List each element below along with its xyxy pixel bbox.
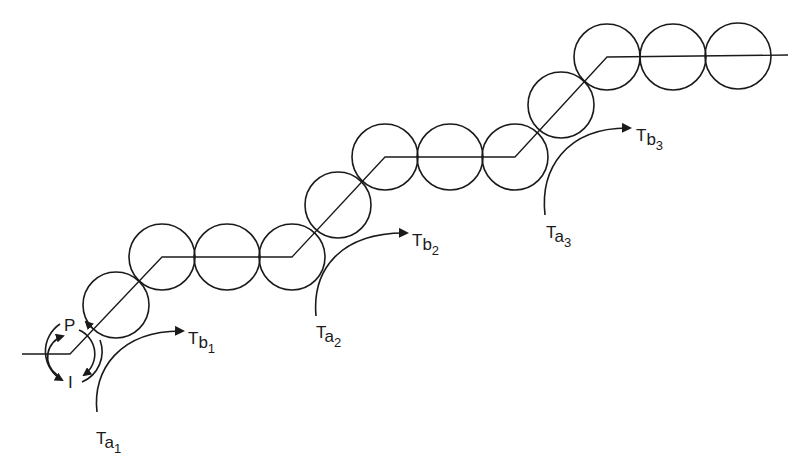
transfer-1: Ta1 Tb1 [96, 329, 215, 456]
transfer-arrow-3-icon [544, 128, 630, 215]
label-ta2: Ta2 [316, 323, 341, 350]
transfer-arrow-2-icon [316, 233, 407, 316]
circle-5 [305, 172, 371, 238]
label-ta3: Ta3 [546, 223, 571, 250]
stepped-path-line [22, 55, 788, 354]
label-tb3: Tb3 [636, 126, 663, 153]
transfer-arrow-1-icon [96, 331, 183, 412]
transfer-2: Ta2 Tb2 [316, 231, 439, 350]
circle-chain-diagram: P I Ta1 Tb1 Ta2 Tb2 Ta3 Tb3 [0, 0, 807, 470]
label-tb1: Tb1 [188, 329, 215, 356]
label-i: I [68, 373, 73, 392]
circle-group [83, 23, 771, 338]
label-p: P [64, 316, 75, 335]
label-ta1: Ta1 [96, 429, 121, 456]
right-outer-arc [82, 340, 102, 382]
circle-9 [528, 72, 594, 138]
label-tb2: Tb2 [412, 231, 439, 258]
transfer-3: Ta3 Tb3 [544, 126, 663, 250]
